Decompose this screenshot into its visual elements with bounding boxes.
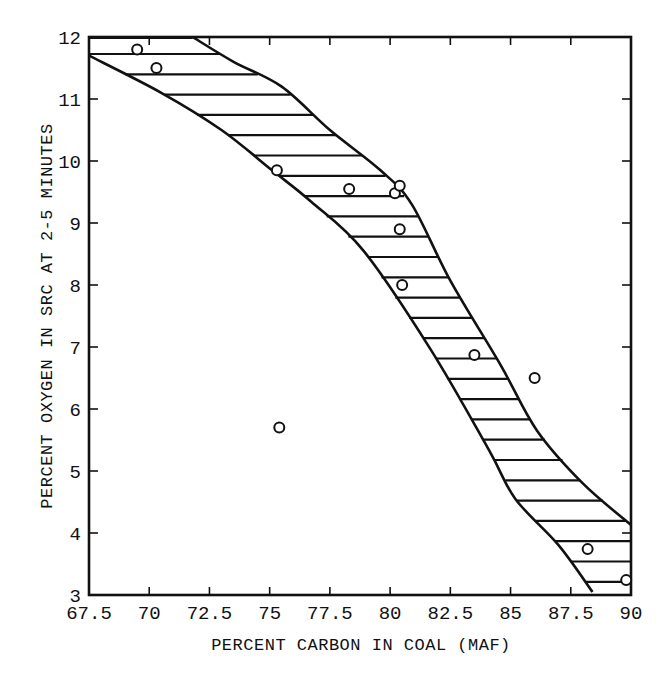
y-tick-label: 6 [70,400,81,422]
plot-frame [89,37,631,595]
y-tick-label: 7 [70,338,81,360]
y-tick-label: 12 [58,28,81,50]
y-tick-label: 11 [58,90,81,112]
data-point [344,184,354,194]
x-tick-label: 82.5 [428,603,474,625]
data-point [395,181,405,191]
data-point [151,63,161,73]
y-tick-label: 8 [70,276,81,298]
data-points [132,44,631,585]
x-axis-title: PERCENT CARBON IN COAL (MAF) [211,636,511,655]
band-lower-curve [89,56,592,592]
hatched-band [89,37,631,592]
chart: 67.57072.57577.58082.58587.5903456789101… [0,0,667,677]
x-tick-label: 72.5 [187,603,233,625]
y-axis-title: PERCENT OXYGEN IN SRC AT 2-5 MINUTES [38,123,57,508]
y-tick-label: 4 [70,524,81,546]
y-tick-label: 5 [70,462,81,484]
data-point [272,165,282,175]
data-point [583,544,593,554]
x-tick-label: 90 [620,603,643,625]
data-point [469,350,479,360]
x-tick-label: 75 [258,603,281,625]
x-tick-label: 85 [499,603,522,625]
data-point [621,575,631,585]
data-point [530,373,540,383]
data-point [397,280,407,290]
y-tick-label: 3 [70,586,81,608]
plot-border [89,37,631,595]
x-tick-label: 77.5 [307,603,353,625]
y-tick-label: 10 [58,152,81,174]
x-tick-label: 80 [379,603,402,625]
y-tick-label: 9 [70,214,81,236]
data-point [395,224,405,234]
x-tick-label: 70 [138,603,161,625]
data-point [132,44,142,54]
band-upper-curve [193,37,631,525]
x-tick-label: 87.5 [548,603,594,625]
axis-ticks: 67.57072.57577.58082.58587.5903456789101… [58,28,642,625]
data-point [274,423,284,433]
